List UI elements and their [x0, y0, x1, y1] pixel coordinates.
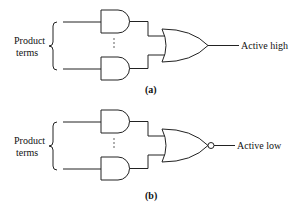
ellipsis-dot [113, 146, 114, 147]
and-gate-bottom [101, 157, 130, 180]
ellipsis-dot [113, 142, 114, 143]
diagram-b: Product terms Active low (b) [14, 110, 282, 202]
wire-and1-to-nor [130, 122, 167, 137]
inversion-bubble-icon [208, 143, 214, 149]
product-label: Product [14, 135, 45, 146]
wire-and1-to-or [130, 22, 167, 37]
brace-icon [49, 122, 57, 170]
ellipsis-dot [113, 42, 114, 43]
ellipsis-dot [113, 138, 114, 139]
caption-a: (a) [145, 84, 157, 96]
logic-diagram-canvas: Product terms Active high (a) Product te… [0, 0, 297, 208]
and-gate-top [101, 10, 130, 33]
or-gate [162, 29, 208, 62]
product-label: Product [14, 35, 45, 46]
wire-and2-to-nor [130, 155, 167, 169]
diagram-a: Product terms Active high (a) [14, 10, 288, 96]
caption-b: (b) [145, 190, 157, 202]
wire-and2-to-or [130, 55, 167, 69]
output-label-active-high: Active high [241, 40, 288, 51]
terms-label: terms [16, 47, 38, 58]
brace-icon [49, 22, 57, 70]
ellipsis-dot [113, 38, 114, 39]
terms-label: terms [16, 147, 38, 158]
and-gate-bottom [101, 57, 130, 80]
nor-gate [162, 129, 208, 162]
ellipsis-dot [113, 46, 114, 47]
and-gate-top [101, 110, 130, 133]
output-label-active-low: Active low [237, 140, 282, 151]
